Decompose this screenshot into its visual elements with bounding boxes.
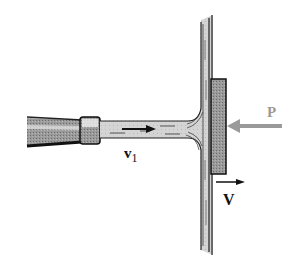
force-arrow: [227, 119, 282, 133]
nozzle: [27, 117, 82, 146]
jet-plate-diagram: v1 P V: [0, 0, 303, 265]
jet-velocity-label: v1: [124, 145, 138, 165]
plate-velocity-arrow: [216, 179, 245, 185]
water-jet: [100, 15, 213, 255]
plate-velocity-label: V: [223, 191, 235, 208]
plate: [211, 79, 226, 174]
force-label: P: [267, 104, 276, 120]
